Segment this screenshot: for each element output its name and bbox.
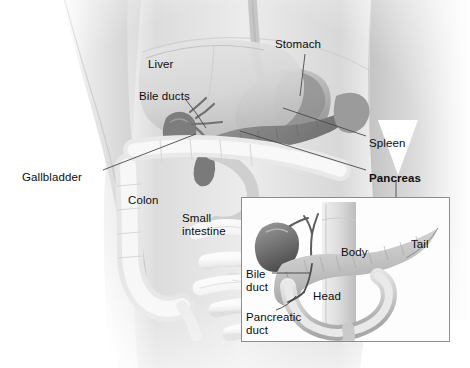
label-tail: Tail [411, 238, 429, 251]
label-small-intestine: Small intestine [182, 212, 226, 237]
label-spleen: Spleen [369, 137, 405, 150]
label-gallbladder: Gallbladder [22, 171, 82, 184]
label-bile-ducts: Bile ducts [139, 90, 190, 103]
label-pancreatic-duct: Pancreatic duct [246, 311, 301, 336]
label-stomach: Stomach [275, 38, 321, 51]
label-body: Body [341, 246, 368, 259]
label-head: Head [313, 290, 341, 303]
label-pancreas: Pancreas [369, 172, 421, 185]
label-bile-duct: Bile duct [246, 268, 268, 293]
label-colon: Colon [128, 194, 159, 207]
label-liver: Liver [148, 58, 173, 71]
anatomy-illustration: Liver Bile ducts Stomach Spleen Pancreas… [0, 0, 470, 368]
